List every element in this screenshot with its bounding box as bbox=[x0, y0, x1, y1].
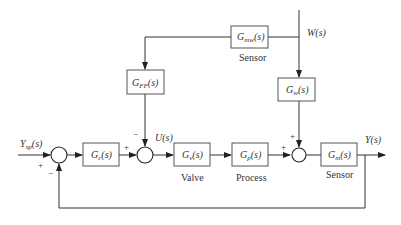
sum1-plus-sign: + bbox=[38, 160, 43, 170]
setpoint-label: Ysp(s) bbox=[20, 138, 43, 151]
feedforward-block: GFF(s) bbox=[127, 70, 164, 94]
process-caption: Process bbox=[236, 172, 267, 183]
summing-junction-1 bbox=[51, 147, 67, 163]
line-to-feedforward bbox=[145, 37, 231, 69]
controller-block: Gc(s) bbox=[83, 143, 119, 166]
manipulated-variable-label: U(s) bbox=[155, 132, 173, 144]
disturbance-sensor-block: Gmw(s) bbox=[231, 26, 268, 48]
disturbance-sensor-caption: Sensor bbox=[239, 52, 267, 63]
process-block: Gp(s) bbox=[232, 143, 268, 166]
output-label: Y(s) bbox=[365, 134, 382, 146]
disturbance-label: W(s) bbox=[307, 27, 327, 39]
valve-block: Gv(s) bbox=[174, 143, 210, 166]
valve-caption: Valve bbox=[181, 172, 204, 183]
sensor-caption: Sensor bbox=[326, 169, 354, 180]
summing-junction-3 bbox=[292, 148, 306, 162]
sum1-minus-sign: − bbox=[48, 168, 53, 178]
sum2-minus-sign: − bbox=[133, 129, 138, 139]
sum2-plus-sign: + bbox=[124, 142, 129, 152]
sum3-disturbance-plus-sign: + bbox=[290, 131, 295, 141]
summing-junction-2 bbox=[137, 147, 153, 163]
disturbance-block: Gw(s) bbox=[278, 78, 315, 101]
sum3-process-plus-sign: + bbox=[281, 142, 286, 152]
block-diagram: Ysp(s) + − Gc(s) + − U(s) Gv(s) Valve Gp… bbox=[0, 0, 401, 225]
sensor-block: Gm(s) bbox=[321, 143, 357, 166]
